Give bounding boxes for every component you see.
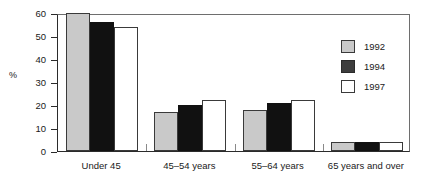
legend-item: 1997 [341, 76, 385, 96]
category-label: 55–64 years [234, 160, 322, 171]
y-tick-mark [51, 152, 57, 153]
bar [331, 142, 355, 151]
bar [114, 27, 138, 151]
bar [243, 110, 267, 151]
bar-chart: % 0102030405060 Under 4545–54 years55–64… [0, 0, 434, 186]
group-separator [235, 144, 236, 151]
bar [267, 103, 291, 151]
bar [154, 112, 178, 151]
category-label: 45–54 years [145, 160, 233, 171]
bar-group [146, 15, 234, 151]
group-separator [146, 144, 147, 151]
bar-group [58, 15, 146, 151]
legend-label: 1992 [364, 41, 385, 52]
y-tick-label: 40 [24, 55, 46, 65]
y-axis-title: % [9, 70, 17, 81]
category-label: Under 45 [57, 160, 145, 171]
bar [66, 13, 90, 151]
y-tick-label: 30 [24, 78, 46, 88]
legend-swatch [341, 80, 355, 93]
bar [90, 22, 114, 151]
y-tick-label: 0 [24, 147, 46, 157]
y-tick-label: 20 [24, 101, 46, 111]
bar [178, 105, 202, 151]
legend-swatch [341, 40, 355, 53]
y-tick-label: 60 [24, 9, 46, 19]
category-label: 65 years and over [322, 160, 410, 171]
legend-swatch [341, 60, 355, 73]
legend-item: 1994 [341, 56, 385, 76]
group-separator [323, 144, 324, 151]
bar-group [235, 15, 323, 151]
legend: 199219941997 [341, 36, 385, 96]
y-tick-label: 50 [24, 32, 46, 42]
bar [291, 100, 315, 151]
legend-label: 1997 [364, 81, 385, 92]
bar [379, 142, 403, 151]
bar [202, 100, 226, 151]
legend-label: 1994 [364, 61, 385, 72]
legend-item: 1992 [341, 36, 385, 56]
y-tick-label: 10 [24, 124, 46, 134]
bar [355, 142, 379, 151]
